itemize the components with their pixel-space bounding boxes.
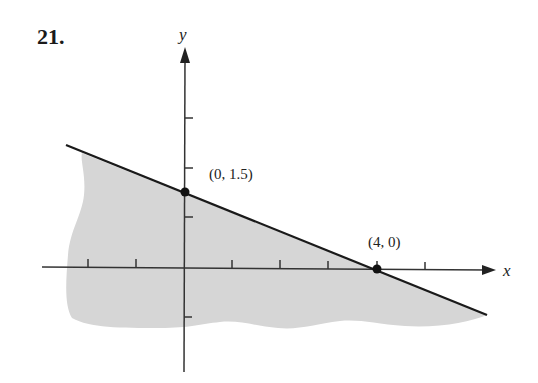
inequality-graph: y x (0, 1.5) (4, 0) xyxy=(0,0,538,383)
point-y-intercept xyxy=(181,188,190,197)
point-y-intercept-label: (0, 1.5) xyxy=(209,166,253,183)
x-axis-label: x xyxy=(502,261,511,280)
y-axis-arrow-icon xyxy=(180,47,190,63)
shaded-region xyxy=(66,153,487,328)
y-axis-label: y xyxy=(177,25,187,44)
x-axis-arrow-icon xyxy=(482,265,496,275)
point-x-intercept-label: (4, 0) xyxy=(368,234,401,251)
point-x-intercept xyxy=(373,265,382,274)
y-axis xyxy=(184,56,185,372)
